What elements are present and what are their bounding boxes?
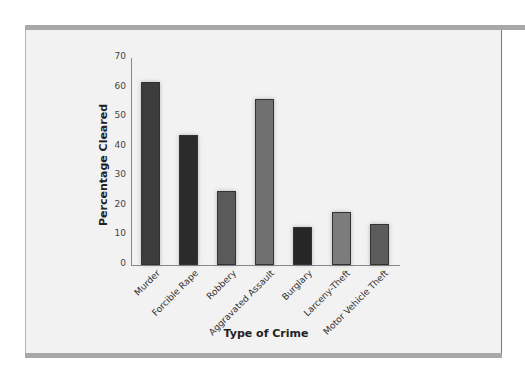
bar-murder <box>141 82 160 265</box>
x-axis-line <box>131 265 400 266</box>
x-tick-label: Murder <box>132 268 162 298</box>
x-tick-label: Burglary <box>280 268 314 302</box>
x-axis-label: Type of Crime <box>224 327 309 340</box>
bar-robbery <box>217 191 236 265</box>
y-tick-label: 70 <box>106 51 126 61</box>
y-tick-label: 30 <box>106 169 126 179</box>
y-tick-label: 50 <box>106 110 126 120</box>
y-tick-label: 60 <box>106 81 126 91</box>
y-tick-label: 0 <box>106 258 126 268</box>
x-tick-label: Robbery <box>204 268 237 301</box>
bar-chart: Percentage Cleared Type of Crime 0102030… <box>0 0 525 379</box>
y-tick-label: 40 <box>106 140 126 150</box>
bar-forcible-rape <box>179 135 198 265</box>
y-tick-label: 20 <box>106 199 126 209</box>
bar-motor-vehicle-theft <box>370 224 389 265</box>
y-tick-label: 10 <box>106 228 126 238</box>
bar-burglary <box>293 227 312 265</box>
bar-larceny-theft <box>332 212 351 265</box>
x-tick-label: Motor Vehicle Theft <box>321 268 390 337</box>
y-axis-line <box>131 58 132 265</box>
bar-aggravated-assault <box>255 99 274 265</box>
